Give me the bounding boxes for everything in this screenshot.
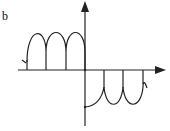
y-axis-arrow-icon	[81, 1, 89, 12]
waveform-diagram	[0, 0, 170, 131]
lower-arches	[85, 83, 147, 107]
upper-arches	[27, 33, 85, 63]
x-axis-arrow-icon	[155, 66, 166, 74]
